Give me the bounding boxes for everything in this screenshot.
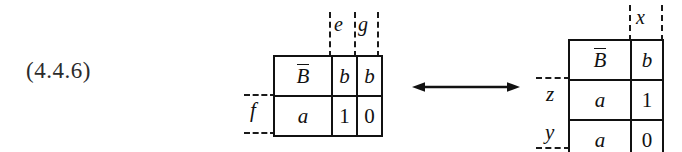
left-column-dash-line-2 [354, 12, 356, 57]
left-column-dash-line-1 [329, 12, 331, 57]
left-cell-r1c0: a [274, 96, 332, 136]
left-row-label-f: f [250, 98, 256, 123]
left-row-dash-line-1 [244, 94, 276, 96]
right-cell-r2c0: a [569, 120, 631, 152]
right-row-dash-line-1 [536, 77, 570, 79]
left-cell-r1c1: 1 [332, 96, 357, 136]
right-column-dash-line-1 [629, 5, 631, 41]
right-cell-r0c0: B [569, 40, 631, 80]
right-row-label-z: z [546, 82, 554, 107]
right-cell-r0c1: b [631, 40, 663, 80]
right-row-label-y: y [545, 120, 554, 145]
left-column-dash-line-3 [377, 12, 379, 57]
table-row: a 1 0 [274, 96, 382, 136]
overlined-b: B [297, 64, 310, 87]
left-column-label-e: e [334, 13, 343, 36]
right-column-label-x: x [636, 6, 645, 29]
left-cell-r0c1: b [332, 56, 357, 96]
right-block-table: B b a 1 a 0 [568, 39, 664, 152]
left-block-table: B b b a 1 0 [273, 55, 383, 137]
left-cell-r0c2: b [357, 56, 382, 96]
left-column-label-g: g [358, 13, 368, 36]
table-row: B b [569, 40, 663, 80]
right-row-dash-line-2 [536, 147, 570, 149]
right-column-dash-line-2 [661, 5, 663, 41]
right-cell-r1c1: 1 [631, 80, 663, 120]
table-row: a 1 [569, 80, 663, 120]
left-row-dash-line-2 [244, 132, 276, 134]
double-headed-arrow [412, 79, 520, 95]
overlined-b: B [594, 48, 607, 71]
equation-number: (4.4.6) [26, 58, 91, 84]
left-cell-r1c2: 0 [357, 96, 382, 136]
table-row: B b b [274, 56, 382, 96]
right-cell-r1c0: a [569, 80, 631, 120]
right-cell-r2c1: 0 [631, 120, 663, 152]
table-row: a 0 [569, 120, 663, 152]
left-cell-r0c0: B [274, 56, 332, 96]
